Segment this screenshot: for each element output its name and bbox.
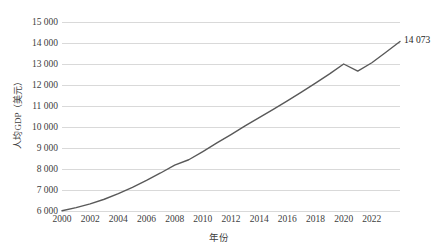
data-label-14073: 14 073 [404,35,430,45]
series-line-gdp-per-capita [62,41,400,210]
x-axis-title: 年份 [0,230,438,244]
line-chart: 人均GDP（美元） 15 00014 00013 00012 00011 000… [0,0,438,250]
series-plot-area [0,0,438,250]
